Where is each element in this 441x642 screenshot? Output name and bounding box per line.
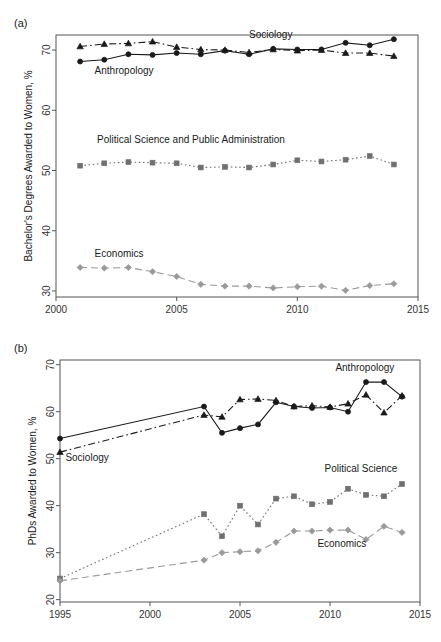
data-point-marker	[101, 265, 107, 271]
data-point-marker	[246, 49, 252, 55]
data-point-marker	[220, 430, 225, 435]
panel-tag-label: (a)	[14, 17, 27, 29]
data-point-marker	[400, 482, 405, 487]
panel-a-svg: (a)20002005201020153040506070Bachelor's …	[0, 0, 441, 320]
x-tick-label: 2015	[407, 304, 430, 315]
series-political-science	[58, 482, 405, 581]
y-tick-label: 60	[45, 406, 56, 418]
y-tick-label: 30	[41, 285, 52, 297]
data-point-marker	[126, 52, 131, 57]
data-point-marker	[101, 41, 107, 47]
panel-b-svg: (b)19952000200520102015203040506070PhDs …	[0, 320, 441, 642]
data-point-marker	[295, 158, 300, 163]
panel-tag-label: (b)	[14, 342, 27, 354]
data-point-marker	[198, 52, 203, 57]
series-line	[60, 382, 402, 438]
data-point-marker	[78, 59, 83, 64]
data-point-marker	[273, 539, 279, 545]
data-point-marker	[343, 40, 348, 45]
panel-a: (a)20002005201020153040506070Bachelor's …	[0, 0, 441, 320]
data-point-marker	[174, 273, 180, 279]
data-point-marker	[222, 283, 228, 289]
series-economics	[77, 264, 397, 293]
series-sociology	[58, 380, 405, 441]
data-point-marker	[382, 380, 387, 385]
series-political-science-and-public-administration	[78, 154, 397, 170]
data-point-marker	[271, 162, 276, 167]
data-point-marker	[345, 527, 351, 533]
data-point-marker	[270, 285, 276, 291]
series-label-anthropology: Anthropology	[335, 362, 394, 373]
data-point-marker	[381, 409, 387, 415]
data-point-marker	[382, 494, 387, 499]
y-tick-label: 30	[45, 547, 56, 559]
data-point-marker	[309, 528, 315, 534]
data-point-marker	[364, 492, 369, 497]
x-tick-label: 2005	[166, 304, 189, 315]
series-anthropology	[57, 392, 405, 455]
x-tick-label: 2010	[286, 304, 309, 315]
x-tick-label: 2000	[139, 609, 162, 620]
y-axis-title: PhDs Awarded to Women, %	[27, 417, 38, 546]
series-label-economics: Economics	[95, 248, 144, 259]
data-point-marker	[102, 57, 107, 62]
series-label-political-science: Political Science	[325, 463, 398, 474]
data-point-marker	[346, 486, 351, 491]
data-point-marker	[126, 160, 131, 165]
data-point-marker	[364, 380, 369, 385]
data-point-marker	[174, 161, 179, 166]
data-point-marker	[247, 165, 252, 170]
y-tick-label: 50	[41, 165, 52, 177]
y-tick-label: 50	[45, 453, 56, 465]
data-point-marker	[174, 51, 179, 56]
data-point-marker	[78, 163, 83, 168]
data-point-marker	[399, 529, 405, 535]
data-point-marker	[294, 284, 300, 290]
data-point-marker	[319, 159, 324, 164]
data-point-marker	[237, 549, 243, 555]
data-point-marker	[318, 283, 324, 289]
series-label-political-science-and-public-administration: Political Science and Public Administrat…	[97, 134, 285, 145]
data-point-marker	[201, 557, 207, 563]
data-point-marker	[201, 412, 207, 418]
data-point-marker	[125, 264, 131, 270]
data-point-marker	[150, 52, 155, 57]
data-point-marker	[149, 38, 155, 44]
data-point-marker	[256, 422, 261, 427]
y-tick-label: 70	[41, 44, 52, 56]
data-point-marker	[328, 500, 333, 505]
data-point-marker	[343, 157, 348, 162]
data-point-marker	[367, 282, 373, 288]
data-point-marker	[346, 409, 351, 414]
data-point-marker	[345, 401, 351, 407]
data-point-marker	[149, 269, 155, 275]
data-point-marker	[255, 548, 261, 554]
data-point-marker	[391, 37, 396, 42]
data-point-marker	[310, 502, 315, 507]
data-point-marker	[327, 527, 333, 533]
y-tick-label: 20	[45, 594, 56, 606]
data-point-marker	[102, 161, 107, 166]
data-point-marker	[309, 402, 315, 408]
y-tick-label: 60	[41, 104, 52, 116]
y-tick-label: 40	[41, 225, 52, 237]
data-point-marker	[367, 43, 372, 48]
y-axis-title: Bachelor's Degrees Awarded to Women, %	[23, 70, 34, 261]
series-sociology	[78, 37, 397, 64]
data-point-marker	[238, 426, 243, 431]
series-label-anthropology: Anthropology	[95, 65, 154, 76]
series-label-sociology: Sociology	[249, 29, 292, 40]
data-point-marker	[343, 287, 349, 293]
data-point-marker	[58, 436, 63, 441]
series-line	[60, 395, 402, 452]
y-tick-label: 40	[45, 500, 56, 512]
data-point-marker	[391, 281, 397, 287]
data-point-marker	[246, 283, 252, 289]
data-point-marker	[274, 496, 279, 501]
data-point-marker	[363, 392, 369, 398]
data-point-marker	[198, 281, 204, 287]
figure-root: (a)20002005201020153040506070Bachelor's …	[0, 0, 441, 642]
series-line	[60, 526, 402, 581]
data-point-marker	[198, 165, 203, 170]
data-point-marker	[256, 522, 261, 527]
